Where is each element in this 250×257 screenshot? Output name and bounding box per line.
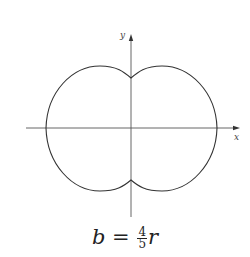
- fraction-denominator: 5: [137, 239, 147, 250]
- x-axis-label: x: [234, 132, 239, 142]
- caption-equals: =: [112, 225, 130, 249]
- caption-fraction: 4 5: [137, 227, 147, 250]
- caption: b = 4 5 r: [0, 227, 250, 250]
- caption-rhs: r: [148, 225, 158, 249]
- epitrochoid-curve: [46, 66, 217, 191]
- x-axis-arrow-icon: [233, 126, 240, 130]
- caption-lhs: b: [92, 225, 105, 249]
- y-axis-arrow-icon: [129, 34, 133, 41]
- y-axis-label: y: [120, 30, 125, 40]
